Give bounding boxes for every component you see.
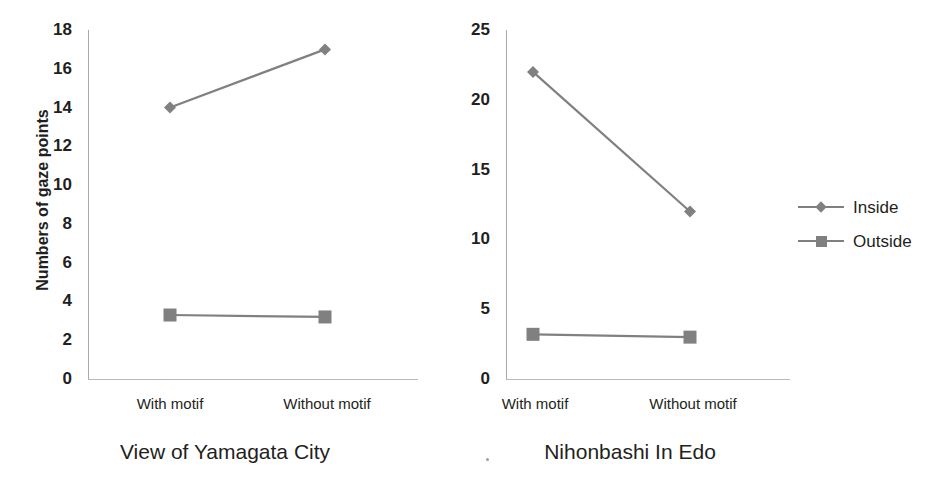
- x-tick-label-right-1: Without motif: [628, 396, 758, 411]
- series-layer-right: [440, 0, 840, 497]
- figure-canvas: Numbers of gaze points 024681012141618 W…: [0, 0, 938, 497]
- legend-item-outside: Outside: [798, 224, 930, 258]
- chart-panel-right: 0510152025 With motif Without motif Niho…: [440, 0, 840, 497]
- x-tick-label-right-0: With motif: [475, 396, 595, 411]
- series-line-outside: [170, 315, 325, 317]
- data-point-inside-0: [164, 102, 176, 114]
- series-layer-left: [0, 0, 470, 497]
- chart-title-left: View of Yamagata City: [35, 441, 415, 462]
- data-point-outside-0: [164, 309, 177, 322]
- series-line-inside: [170, 49, 325, 107]
- legend-marker-square-icon: [798, 232, 844, 250]
- legend-item-inside: Inside: [798, 190, 930, 224]
- series-line-outside: [533, 334, 690, 337]
- data-point-outside-1: [684, 331, 697, 344]
- legend-label-outside: Outside: [844, 233, 912, 250]
- data-point-outside-1: [319, 310, 332, 323]
- x-tick-label-left-1: Without motif: [262, 396, 392, 411]
- data-point-inside-1: [319, 43, 331, 55]
- x-tick-label-left-0: With motif: [110, 396, 230, 411]
- legend-label-inside: Inside: [844, 199, 898, 216]
- series-line-inside: [533, 72, 690, 212]
- legend-marker-diamond-icon: [798, 198, 844, 216]
- chart-title-right: Nihonbashi In Edo: [460, 441, 800, 462]
- data-point-outside-0: [527, 328, 540, 341]
- chart-legend: Inside Outside: [798, 190, 930, 258]
- chart-panel-left: Numbers of gaze points 024681012141618 W…: [0, 0, 470, 497]
